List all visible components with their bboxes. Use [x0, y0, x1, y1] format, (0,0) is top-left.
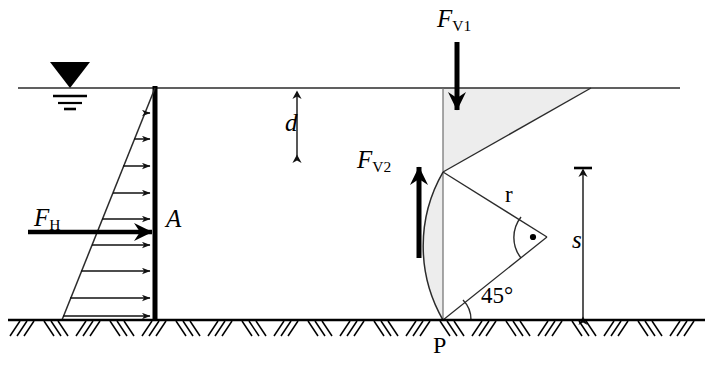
label-force-fv2-base: F: [357, 146, 372, 173]
right-angle-dot-icon: [530, 234, 536, 240]
ground-line: [8, 320, 705, 336]
label-force-fv1-sub: V1: [452, 17, 471, 34]
label-angle-45: 45°: [481, 284, 513, 307]
label-force-fv2: FV2: [357, 147, 391, 174]
water-level-symbol: [50, 62, 90, 109]
label-force-fh-sub: H: [49, 216, 60, 233]
radius-line-upper: [443, 172, 547, 237]
label-force-fv1-base: F: [437, 5, 452, 32]
figure-canvas: FH A d FV1 FV2 r s 45° P: [0, 0, 713, 375]
right-angle-arc: [514, 217, 521, 258]
label-force-fv2-sub: V2: [372, 158, 391, 175]
label-force-fh-base: F: [34, 204, 49, 231]
hydrostatic-pressure-diagram: [0, 0, 713, 375]
label-depth-d: d: [285, 110, 298, 135]
label-point-a: A: [166, 206, 181, 231]
pressure-hypotenuse: [62, 88, 155, 320]
label-point-p: P: [433, 333, 446, 357]
label-depth-s: s: [572, 227, 582, 252]
label-radius-r: r: [505, 183, 513, 206]
label-force-fv1: FV1: [437, 6, 471, 33]
ground-hatching: [10, 321, 694, 336]
label-force-fh: FH: [34, 205, 60, 232]
